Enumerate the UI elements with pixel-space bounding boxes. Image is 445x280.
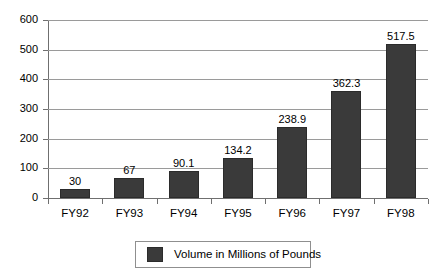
bar-group: 362.3 <box>319 20 373 198</box>
bar <box>223 158 253 198</box>
x-axis-category-label: FY95 <box>211 207 265 220</box>
bar-chart: 0100200300400500600 306790.1134.2238.936… <box>0 0 445 280</box>
y-axis-tick-label: 200 <box>0 133 38 144</box>
y-axis-tick-label: 600 <box>0 14 38 25</box>
x-axis-category-label: FY92 <box>48 207 102 220</box>
x-axis-tick-mark <box>374 199 375 204</box>
x-axis-category-label: FY93 <box>102 207 156 220</box>
x-axis-category-label: FY97 <box>319 207 373 220</box>
bar-value-label: 134.2 <box>211 144 265 156</box>
y-axis-tick-label: 100 <box>0 162 38 173</box>
bar <box>277 127 307 198</box>
bar <box>386 44 416 198</box>
x-axis-tick-mark <box>157 199 158 204</box>
bar-group: 90.1 <box>157 20 211 198</box>
x-axis-tick-mark <box>48 199 49 204</box>
x-axis-category-label: FY98 <box>374 207 428 220</box>
x-axis-tick-mark <box>102 199 103 204</box>
bar <box>114 178 144 198</box>
x-axis-category-label: FY94 <box>157 207 211 220</box>
bar-value-label: 90.1 <box>157 157 211 169</box>
bar-value-label: 517.5 <box>374 30 428 42</box>
plot-area: 306790.1134.2238.9362.3517.5 <box>48 20 428 199</box>
bar-group: 67 <box>102 20 156 198</box>
bar-value-label: 67 <box>102 164 156 176</box>
x-axis-tick-mark <box>211 199 212 204</box>
bar <box>169 171 199 198</box>
bar <box>60 189 90 198</box>
x-axis-tick-mark <box>319 199 320 204</box>
y-axis-tick-label: 0 <box>0 192 38 203</box>
y-axis-tick-label: 300 <box>0 103 38 114</box>
legend-series-label: Volume in Millions of Pounds <box>174 248 321 261</box>
bar-value-label: 362.3 <box>319 77 373 89</box>
bar-group: 238.9 <box>265 20 319 198</box>
bar-group: 517.5 <box>374 20 428 198</box>
x-axis-category-label: FY96 <box>265 207 319 220</box>
bar-value-label: 30 <box>48 175 102 187</box>
x-axis-tick-mark <box>428 199 429 204</box>
bar <box>331 91 361 198</box>
bar-value-label: 238.9 <box>265 113 319 125</box>
y-axis-tick-label: 500 <box>0 44 38 55</box>
x-axis: FY92FY93FY94FY95FY96FY97FY98 <box>48 199 428 225</box>
y-axis-tick-label: 400 <box>0 73 38 84</box>
x-axis-tick-mark <box>265 199 266 204</box>
chart-legend: Volume in Millions of Pounds <box>135 241 311 268</box>
legend-color-swatch <box>147 247 163 262</box>
bar-group: 134.2 <box>211 20 265 198</box>
bar-group: 30 <box>48 20 102 198</box>
